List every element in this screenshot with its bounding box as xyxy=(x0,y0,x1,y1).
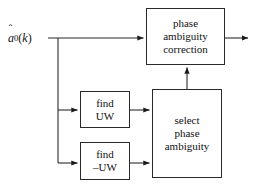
block-find-uw[interactable]: find UW xyxy=(80,91,130,128)
block-label-line: –UW xyxy=(93,161,117,174)
block-diagram: ̂a0(k) phase ambiguity correction find U… xyxy=(0,0,263,194)
block-label-line: select xyxy=(174,114,199,127)
block-label-line: ambiguity xyxy=(163,30,208,43)
block-phase-ambiguity-correction[interactable]: phase ambiguity correction xyxy=(146,8,225,65)
input-symbol-a-hat: ̂a xyxy=(8,31,14,46)
block-label-line: phase xyxy=(173,17,198,30)
block-label-line: ambiguity xyxy=(165,140,210,153)
input-close-paren: ) xyxy=(28,31,32,46)
block-select-phase-ambiguity[interactable]: select phase ambiguity xyxy=(152,89,222,178)
block-label-line: UW xyxy=(96,110,114,123)
input-signal-label: ̂a0(k) xyxy=(8,27,50,49)
block-label-line: phase xyxy=(174,127,199,140)
block-label-line: find xyxy=(96,97,114,110)
hat-accent-icon: ̂ xyxy=(8,23,13,34)
block-find-minus-uw[interactable]: find –UW xyxy=(80,142,130,180)
block-label-line: find xyxy=(96,148,114,161)
block-label-line: correction xyxy=(163,43,208,56)
